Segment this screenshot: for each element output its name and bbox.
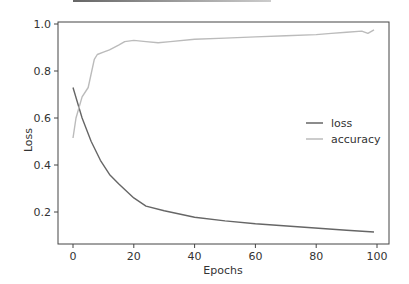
y-axis-ticks: 0.20.40.60.81.0	[34, 18, 59, 219]
line-chart: 020406080100 0.20.40.60.81.0 Epochs Loss…	[0, 0, 409, 284]
x-tick-label: 0	[70, 250, 77, 263]
y-tick-label: 0.2	[34, 206, 52, 219]
y-tick-label: 0.4	[34, 159, 52, 172]
x-tick-label: 100	[367, 250, 388, 263]
x-axis-label: Epochs	[203, 264, 243, 277]
x-tick-label: 40	[188, 250, 202, 263]
legend-accuracy-label: accuracy	[331, 133, 381, 146]
x-axis-ticks: 020406080100	[70, 244, 388, 263]
x-tick-label: 80	[309, 250, 323, 263]
loss-line	[73, 88, 374, 233]
plot-lines	[73, 30, 374, 232]
x-tick-label: 20	[127, 250, 141, 263]
y-axis-label: Loss	[22, 128, 35, 152]
y-tick-label: 0.6	[34, 112, 52, 125]
x-tick-label: 60	[248, 250, 262, 263]
legend-loss-label: loss	[331, 117, 353, 130]
y-tick-label: 1.0	[34, 18, 52, 31]
accuracy-line	[73, 30, 374, 138]
legend: loss accuracy	[306, 117, 381, 146]
y-tick-label: 0.8	[34, 65, 52, 78]
